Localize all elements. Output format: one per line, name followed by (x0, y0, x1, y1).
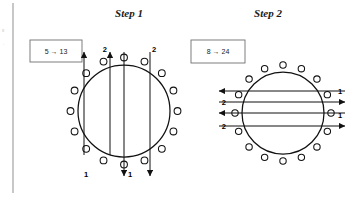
node-step-2-1 (298, 65, 304, 71)
node-step-1-15 (100, 58, 107, 65)
rotation-steps-diagram: ≡ · Step 15 → 132211Step 28 → 242211 (0, 0, 360, 200)
margin-mark-1: · (3, 42, 4, 47)
node-step-1-11 (71, 128, 78, 135)
node-step-2-5 (324, 128, 330, 134)
node-step-2-7 (298, 154, 304, 160)
panel-step-1: Step 15 → 132211 (30, 7, 181, 179)
node-step-2-14 (246, 76, 252, 82)
node-step-2-2 (314, 76, 320, 82)
node-step-2-9 (261, 154, 267, 160)
step-label-step-2-3: 1 (338, 111, 342, 120)
node-step-2-6 (314, 144, 320, 150)
mapping-box-label-step-2: 8 → 24 (207, 48, 230, 55)
step-label-step-1-1: 2 (152, 45, 156, 54)
node-step-1-13 (71, 87, 78, 94)
step-label-step-1-2: 1 (84, 170, 88, 179)
node-step-2-10 (246, 144, 252, 150)
node-step-1-2 (158, 70, 165, 77)
panels-group: Step 15 → 132211Step 28 → 242211 (30, 7, 345, 179)
node-step-2-3 (324, 91, 330, 97)
node-step-2-15 (261, 65, 267, 71)
node-step-1-6 (158, 145, 165, 152)
margin-mark-0: ≡ (2, 28, 5, 33)
step-label-step-2-2: 1 (338, 87, 342, 96)
step-label-step-1-0: 2 (103, 45, 107, 54)
node-step-1-1 (141, 58, 148, 65)
mapping-box-label-step-1: 5 → 13 (45, 48, 68, 55)
node-step-1-3 (170, 87, 177, 94)
node-step-2-13 (235, 91, 241, 97)
step-label-step-2-1: 2 (222, 122, 226, 131)
node-step-1-9 (100, 157, 107, 164)
figure-container: ≡ · Step 15 → 132211Step 28 → 242211 (0, 0, 360, 200)
node-step-2-11 (235, 128, 241, 134)
node-step-1-7 (141, 157, 148, 164)
step-label-step-2-0: 2 (222, 98, 226, 107)
panel-step-2: Step 28 → 242211 (191, 7, 345, 164)
node-step-1-12 (67, 108, 74, 115)
node-step-1-4 (174, 108, 181, 115)
panel-title-step-2: Step 2 (254, 7, 282, 19)
node-step-1-5 (170, 128, 177, 135)
step-label-step-1-3: 1 (128, 170, 132, 179)
panel-title-step-1: Step 1 (115, 7, 143, 19)
node-step-2-0 (280, 62, 286, 68)
margin-marks: ≡ · (2, 28, 5, 47)
node-step-2-8 (280, 158, 286, 164)
